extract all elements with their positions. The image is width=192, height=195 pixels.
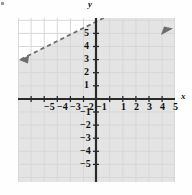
coordinate-plane: −5 −4 −3 −2 −1 1 2 3 4 5 5 4 3 2 1 −1 −2… [18,18,175,182]
x-tick-label-4: 4 [160,102,165,112]
y-tick-label--5: −5 [80,159,91,169]
x-tick-label-2: 2 [134,102,139,112]
y-axis-label: y [88,0,92,9]
y-tick-label--2: −2 [80,120,91,130]
y-tick-label-5: 5 [84,28,89,38]
y-tick-label--3: −3 [80,133,91,143]
x-tick-label--5: −5 [44,102,55,112]
y-tick-label--4: −4 [80,146,91,156]
y-tick-label--1: −1 [80,107,91,117]
x-tick-label-5: 5 [173,102,178,112]
coordinate-plane-svg [18,18,175,182]
graph-figure: −5 −4 −3 −2 −1 1 2 3 4 5 5 4 3 2 1 −1 −2… [0,0,192,195]
x-tick-label-1: 1 [121,102,126,112]
y-tick-label-1: 1 [84,80,89,90]
y-tick-label-4: 4 [84,41,89,51]
x-tick-label--1: −1 [96,102,107,112]
x-axis-label: x [181,91,186,101]
x-tick-label-3: 3 [147,102,152,112]
corner-speck [1,2,4,5]
y-tick-label-3: 3 [84,54,89,64]
y-tick-label-2: 2 [84,67,89,77]
x-tick-label--4: −4 [57,102,68,112]
